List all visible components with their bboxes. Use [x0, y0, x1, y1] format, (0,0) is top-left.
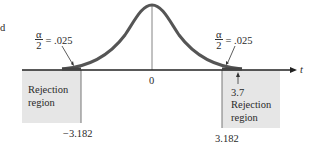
left-critical-value: −3.182 — [63, 128, 93, 139]
axis-label: t — [300, 64, 303, 75]
fragment-text: d — [0, 22, 5, 33]
axis-arrow-icon — [290, 67, 297, 73]
right-critical-value: 3.182 — [215, 133, 239, 144]
alpha-symbol: α — [215, 30, 223, 40]
left-region-label-2: region — [28, 97, 55, 108]
right-alpha-label: α2 = .025 — [215, 30, 252, 50]
alpha-value: = .025 — [226, 35, 253, 46]
right-region-label-1: Rejection — [231, 99, 271, 110]
left-alpha-label: α2 = .025 — [35, 30, 72, 50]
alpha-denominator: 2 — [36, 40, 41, 50]
right-region-label-2: region — [231, 112, 258, 123]
t-distribution-diagram — [0, 0, 313, 154]
alpha-denominator: 2 — [216, 40, 221, 50]
left-region-label-1: Rejection — [28, 84, 68, 95]
center-label: 0 — [149, 75, 154, 86]
alpha-value: = .025 — [46, 35, 73, 46]
test-statistic-value: 3.7 — [231, 87, 244, 98]
alpha-symbol: α — [35, 30, 43, 40]
